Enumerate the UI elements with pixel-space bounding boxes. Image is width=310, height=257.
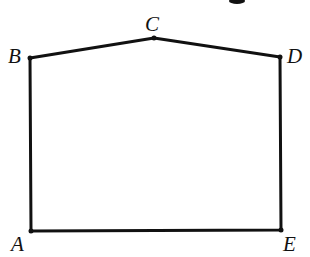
label-a: A [9, 232, 24, 256]
pentagon-outline [30, 38, 281, 231]
point-b [28, 56, 33, 61]
point-d [278, 55, 283, 60]
label-d: D [286, 44, 302, 68]
pentagon-diagram: B C D A E [0, 0, 310, 257]
label-b: B [8, 44, 21, 68]
cropped-text-fragment [229, 0, 245, 4]
label-c: C [145, 12, 160, 36]
point-c [152, 36, 157, 41]
point-a [29, 229, 34, 234]
label-e: E [282, 232, 296, 256]
